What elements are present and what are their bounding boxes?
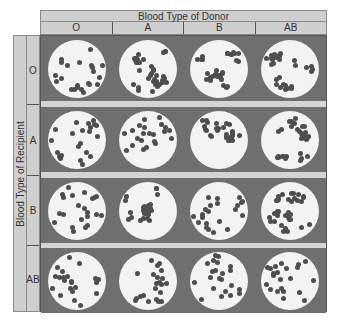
- cell-ab-a: [112, 248, 183, 313]
- blood-cell: [158, 290, 163, 295]
- blood-cell: [220, 271, 225, 276]
- recipient-type-b: B: [27, 176, 39, 246]
- blood-cell: [281, 296, 286, 301]
- blood-cell: [311, 278, 316, 283]
- blood-cell: [154, 73, 159, 78]
- blood-cell: [223, 289, 228, 294]
- blood-cell: [215, 196, 220, 201]
- blood-cell: [97, 75, 102, 80]
- blood-cell: [139, 138, 144, 143]
- blood-cell: [302, 298, 307, 303]
- blood-cell: [217, 219, 222, 224]
- blood-cell: [161, 50, 166, 55]
- blood-cell: [59, 60, 64, 65]
- blood-cell: [298, 151, 303, 156]
- blood-cell: [159, 282, 164, 287]
- blood-cell: [135, 271, 140, 276]
- blood-cell: [141, 131, 146, 136]
- blood-cell: [164, 281, 169, 286]
- blood-cell: [300, 124, 305, 129]
- recipient-axis-title: Blood Type of Recipient: [15, 121, 26, 226]
- blood-cell: [271, 61, 276, 66]
- blood-cell: [205, 261, 210, 266]
- blood-cell: [152, 139, 157, 144]
- blood-cell: [136, 52, 141, 57]
- blood-cell: [148, 202, 153, 207]
- blood-cell: [66, 185, 71, 190]
- blood-cell: [229, 52, 234, 57]
- recipient-type-a: A: [27, 105, 39, 176]
- blood-cell: [59, 76, 64, 81]
- blood-cell: [74, 120, 79, 125]
- blood-cell: [305, 135, 310, 140]
- blood-cell: [240, 213, 245, 218]
- blood-cell: [153, 286, 158, 291]
- recipient-type-o: O: [27, 36, 39, 105]
- blood-cell: [277, 75, 282, 80]
- blood-cell: [95, 82, 100, 87]
- blood-cell: [85, 214, 90, 219]
- blood-cell: [299, 225, 304, 230]
- blood-cell: [136, 88, 141, 93]
- blood-cell: [157, 115, 162, 120]
- cell-a-b: [184, 107, 255, 172]
- blood-cell: [280, 192, 285, 197]
- blood-cell: [205, 120, 210, 125]
- blood-cell: [289, 199, 294, 204]
- blood-cell: [53, 73, 58, 78]
- blood-cell: [283, 226, 288, 231]
- blood-cell: [146, 299, 151, 304]
- blood-cell: [221, 83, 226, 88]
- blood-sample-plate: [48, 252, 106, 310]
- blood-cell: [50, 286, 55, 291]
- blood-cell: [309, 69, 314, 74]
- blood-cell: [240, 199, 245, 204]
- donor-type-header-row: O A B AB: [40, 22, 327, 35]
- blood-cell: [305, 154, 310, 159]
- blood-cell: [230, 133, 235, 138]
- cell-o-a: [112, 36, 183, 101]
- blood-cell: [293, 116, 298, 121]
- blood-sample-plate: [261, 40, 319, 98]
- blood-cell: [155, 84, 160, 89]
- blood-sample-plate: [190, 182, 248, 240]
- donor-axis-title: Blood Type of Donor: [40, 10, 327, 22]
- blood-cell: [192, 280, 197, 285]
- blood-cell: [209, 134, 214, 139]
- blood-cell: [215, 128, 220, 133]
- donor-type-b: B: [184, 22, 256, 34]
- blood-cell: [137, 68, 142, 73]
- cell-b-b: [184, 178, 255, 243]
- blood-cell: [210, 269, 215, 274]
- blood-cell: [191, 214, 196, 219]
- blood-cell: [283, 156, 288, 161]
- blood-cell: [129, 215, 134, 220]
- blood-cell: [62, 278, 67, 283]
- blood-cell: [73, 285, 78, 290]
- blood-cell: [283, 87, 288, 92]
- blood-cell: [225, 227, 230, 232]
- cell-ab-o: [41, 248, 112, 313]
- blood-cell: [154, 186, 159, 191]
- donor-type-a: A: [113, 22, 185, 34]
- blood-cell: [70, 131, 75, 136]
- cell-b-ab: [255, 178, 326, 243]
- cell-o-ab: [255, 36, 326, 101]
- grid-row-recipient-o: [41, 36, 326, 101]
- cell-b-a: [112, 178, 183, 243]
- blood-cell: [236, 51, 241, 56]
- blood-cell: [278, 51, 283, 56]
- blood-cell: [69, 280, 74, 285]
- blood-sample-plate: [48, 182, 106, 240]
- blood-cell: [292, 58, 297, 63]
- blood-cell: [61, 212, 66, 217]
- blood-cell: [88, 47, 93, 52]
- blood-cell: [289, 124, 294, 129]
- blood-cell: [288, 217, 293, 222]
- cell-ab-ab: [255, 248, 326, 313]
- blood-cell: [217, 276, 222, 281]
- blood-cell: [87, 129, 92, 134]
- blood-sample-plate: [48, 111, 106, 169]
- blood-cell: [274, 82, 279, 87]
- blood-cell: [211, 258, 216, 263]
